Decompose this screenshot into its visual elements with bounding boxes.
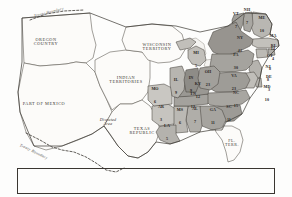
state-shape-ar — [152, 104, 174, 126]
state-shape-nc — [204, 90, 250, 107]
state-shape-al — [186, 106, 202, 132]
state-shape-ri — [268, 49, 275, 56]
state-shape-in — [184, 68, 200, 92]
state-shape-ct — [256, 49, 268, 58]
state-shape-nh — [243, 12, 253, 32]
state-shape-mo — [148, 84, 172, 106]
shape-florida-territory — [214, 126, 243, 162]
map-legend-box — [17, 168, 275, 194]
state-shape-ma — [252, 38, 279, 48]
shape-oregon-country — [22, 13, 96, 66]
state-shape-ga — [198, 106, 226, 130]
historical-electoral-map: ME 10 NH 7 VT 7 MA 14 RI 4 CT 8 NY 42 NJ… — [0, 0, 292, 197]
state-shape-me — [250, 12, 272, 38]
